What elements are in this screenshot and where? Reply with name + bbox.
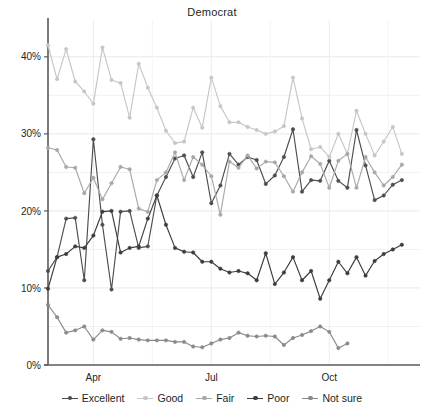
legend-item-good[interactable]: Good	[137, 392, 183, 404]
data-point	[173, 246, 176, 249]
data-point	[119, 210, 122, 213]
legend-marker-icon	[196, 394, 212, 403]
data-point	[391, 125, 394, 128]
data-point	[382, 140, 385, 143]
data-point	[128, 168, 131, 171]
data-point	[282, 271, 285, 274]
data-point	[146, 86, 149, 89]
data-point	[255, 167, 258, 170]
data-point	[219, 338, 222, 341]
data-point	[83, 90, 86, 93]
line-chart-plot: 0%10%20%30%40% AprJulOct	[0, 0, 424, 416]
data-point	[46, 44, 49, 47]
data-point	[173, 151, 176, 154]
data-point	[182, 140, 185, 143]
data-point	[319, 179, 322, 182]
data-point	[101, 46, 104, 49]
data-point	[282, 343, 285, 346]
legend-item-not-sure[interactable]: Not sure	[302, 392, 362, 404]
data-point	[355, 255, 358, 258]
data-point	[373, 198, 376, 201]
data-point	[137, 62, 140, 65]
data-point	[182, 250, 185, 253]
data-point	[64, 47, 67, 50]
data-point	[237, 121, 240, 124]
data-point	[273, 174, 276, 177]
data-point	[400, 178, 403, 181]
data-point	[319, 325, 322, 328]
data-point	[137, 338, 140, 341]
data-point	[55, 77, 58, 80]
data-point	[355, 186, 358, 189]
data-point	[155, 106, 158, 109]
data-point	[101, 223, 104, 226]
data-point	[300, 117, 303, 120]
data-point	[337, 179, 340, 182]
data-point	[164, 129, 167, 132]
legend-label: Not sure	[322, 392, 362, 404]
data-point	[264, 182, 267, 185]
data-point	[291, 336, 294, 339]
data-point	[273, 130, 276, 133]
data-point	[291, 128, 294, 131]
data-point	[155, 194, 158, 197]
x-tick-label: Apr	[86, 372, 102, 383]
data-point	[55, 316, 58, 319]
data-point	[191, 345, 194, 348]
data-point	[328, 159, 331, 162]
data-point	[201, 126, 204, 129]
data-point	[255, 158, 258, 161]
legend-marker-icon	[137, 394, 153, 403]
data-point	[137, 245, 140, 248]
data-point	[83, 279, 86, 282]
data-point	[282, 175, 285, 178]
data-point	[273, 161, 276, 164]
data-point	[201, 163, 204, 166]
data-point	[228, 160, 231, 163]
data-point	[191, 106, 194, 109]
data-point	[309, 148, 312, 151]
data-point	[210, 260, 213, 263]
data-point	[319, 162, 322, 165]
data-point	[119, 251, 122, 254]
data-point	[264, 334, 267, 337]
legend-item-excellent[interactable]: Excellent	[62, 392, 125, 404]
data-series-layer	[46, 44, 403, 350]
data-point	[228, 271, 231, 274]
data-point	[346, 152, 349, 155]
data-point	[300, 333, 303, 336]
series-good	[46, 44, 403, 159]
data-point	[74, 329, 77, 332]
data-point	[237, 331, 240, 334]
data-point	[173, 141, 176, 144]
data-point	[291, 76, 294, 79]
data-point	[173, 340, 176, 343]
legend-label: Good	[157, 392, 183, 404]
data-point	[246, 154, 249, 157]
data-point	[391, 183, 394, 186]
data-point	[64, 217, 67, 220]
legend-item-poor[interactable]: Poor	[247, 392, 289, 404]
data-point	[264, 252, 267, 255]
data-point	[273, 335, 276, 338]
data-point	[246, 125, 249, 128]
data-point	[128, 116, 131, 119]
data-point	[191, 155, 194, 158]
data-point	[219, 213, 222, 216]
data-point	[309, 155, 312, 158]
data-point	[182, 340, 185, 343]
data-point	[355, 109, 358, 112]
data-point	[255, 335, 258, 338]
data-point	[219, 267, 222, 270]
data-point	[210, 342, 213, 345]
data-point	[110, 330, 113, 333]
data-point	[201, 260, 204, 263]
y-tick-label: 40%	[21, 51, 41, 62]
legend-label: Excellent	[82, 392, 125, 404]
data-point	[319, 145, 322, 148]
legend-item-fair[interactable]: Fair	[196, 392, 234, 404]
data-point	[309, 269, 312, 272]
data-point	[300, 190, 303, 193]
data-point	[282, 155, 285, 158]
legend-label: Poor	[267, 392, 289, 404]
